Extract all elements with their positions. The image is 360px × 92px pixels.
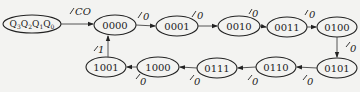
- state-0100: 0100: [317, 17, 357, 37]
- legend-slash: [70, 8, 74, 14]
- svg-text:0: 0: [307, 76, 314, 87]
- svg-text:0100: 0100: [324, 22, 349, 33]
- state-0110: 0110: [256, 57, 296, 77]
- svg-text:0011: 0011: [274, 22, 299, 33]
- svg-text:0: 0: [252, 8, 259, 19]
- svg-text:0: 0: [197, 10, 204, 21]
- svg-text:0: 0: [194, 76, 201, 87]
- edge-0000-0001: [136, 25, 155, 26]
- svg-text:0: 0: [309, 9, 316, 20]
- svg-text:0001: 0001: [164, 21, 189, 32]
- svg-text:1001: 1001: [93, 62, 118, 73]
- state-0111: 0111: [197, 58, 237, 78]
- state-0001: 0001: [156, 16, 198, 36]
- legend-output-label: CO: [75, 6, 91, 17]
- state-0101: 0101: [317, 58, 357, 78]
- svg-text:0010: 0010: [226, 21, 251, 32]
- state-0010: 0010: [218, 16, 260, 36]
- state-1001: 1001: [86, 57, 126, 77]
- svg-text:0: 0: [350, 43, 357, 54]
- edge-0101-0110: [297, 67, 317, 68]
- svg-text:0: 0: [140, 76, 147, 87]
- svg-text:1000: 1000: [145, 62, 170, 73]
- state-0000: 0000: [94, 15, 136, 35]
- svg-text:0110: 0110: [263, 62, 288, 73]
- edge-0110-0111: [238, 67, 256, 68]
- edge-0111-1000: [180, 67, 197, 68]
- svg-text:0101: 0101: [324, 63, 349, 74]
- svg-text:0: 0: [252, 76, 259, 87]
- svg-text:0000: 0000: [102, 20, 127, 31]
- edge-0010-0011: [260, 26, 266, 27]
- legend-node: Q3Q2Q1Q0: [3, 15, 61, 33]
- svg-text:0111: 0111: [204, 63, 229, 74]
- svg-text:1: 1: [98, 44, 104, 55]
- state-0011: 0011: [267, 17, 307, 37]
- svg-text:0: 0: [143, 11, 150, 22]
- state-diagram: Q3Q2Q1Q0 CO 0000 0001 0010 0011 0100 010…: [0, 0, 360, 92]
- state-1000: 1000: [137, 57, 179, 77]
- svg-text:Q3Q2Q1Q0: Q3Q2Q1Q0: [10, 19, 55, 30]
